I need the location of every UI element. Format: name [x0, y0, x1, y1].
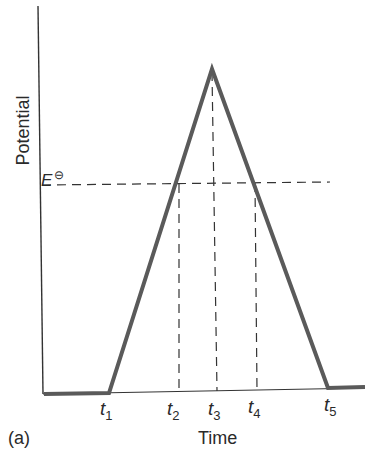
y-axis-label: Potential	[13, 86, 34, 176]
x-axis-label: Time	[198, 428, 237, 449]
tick-t4: t4	[248, 396, 261, 421]
t3-dashed-line	[212, 72, 217, 391]
panel-label: (a)	[8, 428, 30, 449]
potential-waveform-diagram	[0, 0, 365, 456]
tick-t5: t5	[324, 394, 337, 419]
e0-letter: E	[41, 171, 52, 190]
y-axis	[38, 6, 43, 394]
e0-superscript: ⊖	[54, 168, 64, 182]
e0-reference-line	[42, 182, 330, 185]
triangular-waveform	[44, 69, 365, 394]
tick-t1: t1	[100, 398, 113, 423]
t4-dashed-line	[255, 183, 257, 390]
tick-t3: t3	[208, 398, 221, 423]
e0-label: E⊖	[41, 171, 62, 191]
tick-t2: t2	[167, 398, 180, 423]
